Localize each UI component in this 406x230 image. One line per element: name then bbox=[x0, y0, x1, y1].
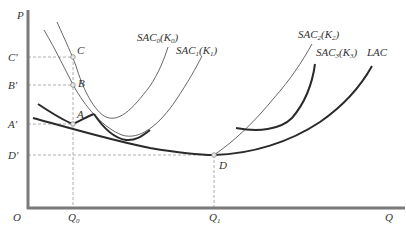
cost-curves-diagram bbox=[0, 0, 406, 230]
guide-lines bbox=[28, 57, 214, 208]
lac-label: LAC bbox=[367, 47, 387, 58]
x-tick-q1-sub: 1 bbox=[217, 217, 221, 225]
point-c-marker bbox=[71, 55, 76, 60]
sac2-curve bbox=[214, 44, 312, 155]
point-c-label: C bbox=[77, 45, 84, 56]
y-tick-b-prime: B′ bbox=[8, 80, 17, 91]
point-a-label: A bbox=[77, 109, 84, 120]
y-tick-c-prime: C′ bbox=[8, 52, 18, 63]
x-tick-q0-sub: 0 bbox=[76, 217, 80, 225]
x-axis-label: Q bbox=[385, 212, 393, 223]
x-tick-q1: Q1 bbox=[209, 212, 220, 225]
x-tick-q1-base: Q bbox=[209, 211, 217, 223]
point-b-label: B bbox=[78, 78, 85, 89]
x-tick-q0-base: Q bbox=[68, 211, 76, 223]
y-tick-a-prime: A′ bbox=[8, 119, 17, 130]
point-b-marker bbox=[71, 83, 76, 88]
sac1-label: SAC1(K1) bbox=[176, 45, 217, 58]
sac2-label: SAC2(K2) bbox=[298, 29, 339, 42]
point-a-marker bbox=[71, 122, 76, 127]
sac3-label: SAC3(K3) bbox=[316, 47, 357, 60]
point-d-marker bbox=[212, 153, 217, 158]
point-d-label: D bbox=[219, 160, 227, 171]
y-axis-label: P bbox=[17, 10, 24, 21]
origin-label: O bbox=[13, 212, 21, 223]
x-tick-q0: Q0 bbox=[68, 212, 79, 225]
y-tick-d-prime: D′ bbox=[8, 150, 18, 161]
sac0-label: SAC0(K0) bbox=[137, 32, 178, 45]
